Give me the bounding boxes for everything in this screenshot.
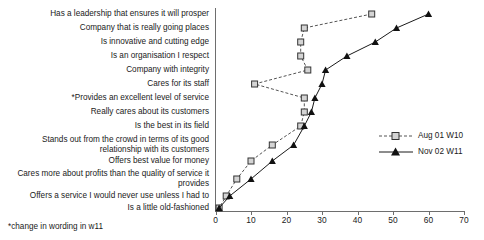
data-point-square-marker	[252, 81, 258, 87]
chart-legend: Aug 01 W10 Nov 02 W11	[378, 129, 478, 161]
legend-label-1: Nov 02 W11	[418, 147, 462, 156]
series-line	[219, 14, 372, 208]
data-point-triangle-marker	[322, 66, 329, 73]
data-point-triangle-marker	[343, 52, 350, 59]
data-point-square-marker	[234, 176, 240, 182]
data-point-triangle-marker	[372, 38, 379, 45]
data-point-square-marker	[269, 142, 275, 148]
data-point-square-marker	[301, 95, 307, 101]
data-point-square-marker	[305, 67, 311, 73]
legend-item-0[interactable]: Aug 01 W10	[378, 129, 478, 143]
data-point-triangle-marker	[290, 141, 297, 148]
data-point-triangle-marker	[311, 94, 318, 101]
data-point-triangle-marker	[425, 10, 432, 17]
data-point-square-marker	[298, 39, 304, 45]
data-point-square-marker	[301, 109, 307, 115]
legend-swatch-dashed-square-icon	[378, 129, 414, 143]
data-point-square-marker	[248, 158, 254, 164]
footnote-text: *change in wording in w11	[8, 222, 103, 231]
legend-item-1[interactable]: Nov 02 W11	[378, 145, 478, 159]
chart-container: Has a leadership that ensures it will pr…	[0, 0, 484, 240]
data-point-square-marker	[298, 53, 304, 59]
legend-label-0: Aug 01 W10	[418, 131, 463, 140]
plot-area	[0, 0, 484, 240]
data-point-square-marker	[369, 11, 375, 17]
data-point-triangle-marker	[269, 157, 276, 164]
data-point-triangle-marker	[318, 80, 325, 87]
series-aug01w10	[216, 11, 375, 211]
legend-swatch-solid-triangle-icon	[378, 145, 414, 159]
data-point-triangle-marker	[393, 24, 400, 31]
series-nov02w11	[216, 10, 433, 211]
data-point-square-marker	[301, 25, 307, 31]
data-point-triangle-marker	[308, 108, 315, 115]
